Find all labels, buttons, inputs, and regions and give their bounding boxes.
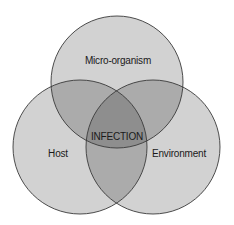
environment-label: Environment — [152, 148, 206, 159]
host-label: Host — [48, 148, 68, 159]
infection-label: INFECTION — [91, 131, 143, 142]
venn-diagram: Micro-organism Host Environment INFECTIO… — [0, 0, 234, 225]
micro-organism-label: Micro-organism — [85, 55, 151, 66]
